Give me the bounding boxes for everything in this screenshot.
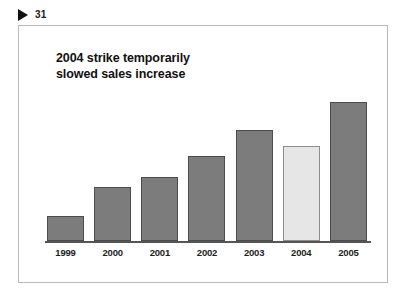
bar-series — [47, 76, 367, 241]
page-number: 31 — [35, 10, 47, 20]
x-axis-line — [45, 241, 371, 243]
plot-area — [47, 76, 367, 241]
bar-2001 — [141, 177, 178, 241]
x-tick-2001: 2001 — [141, 247, 178, 258]
x-tick-1999: 1999 — [47, 247, 84, 258]
x-tick-2005: 2005 — [330, 247, 367, 258]
chart-title-line-1: 2004 strike temporarily — [56, 50, 346, 66]
bar-2003 — [236, 130, 273, 241]
play-triangle-icon — [18, 9, 28, 21]
x-axis-labels: 1999 2000 2001 2002 2003 2004 2005 — [47, 247, 367, 258]
page-marker: 31 — [18, 8, 47, 22]
bar-1999 — [47, 216, 84, 241]
x-tick-2000: 2000 — [94, 247, 131, 258]
x-tick-2004: 2004 — [283, 247, 320, 258]
figure-frame: 2004 strike temporarily slowed sales inc… — [18, 25, 388, 283]
bar-2000 — [94, 187, 131, 241]
x-tick-2002: 2002 — [188, 247, 225, 258]
bar-2005 — [330, 102, 367, 241]
bar-2002 — [188, 156, 225, 241]
bar-2004 — [283, 146, 320, 241]
x-tick-2003: 2003 — [236, 247, 273, 258]
